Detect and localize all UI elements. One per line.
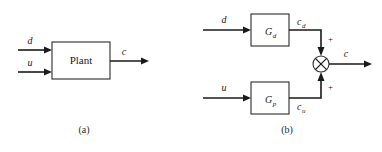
- c-output-label-b: c: [344, 48, 349, 59]
- u-input-arrowhead: [44, 69, 52, 76]
- u-input-label: u: [28, 57, 33, 68]
- sum-plus-top: +: [328, 34, 333, 44]
- cu-wire: [289, 78, 321, 98]
- cu-label: cu: [297, 101, 306, 115]
- cu-arrowhead: [318, 72, 325, 81]
- c-output-label: c: [122, 46, 127, 57]
- d-input-arrowhead: [44, 47, 52, 54]
- cd-arrowhead: [318, 47, 325, 56]
- diagram-canvas: Plant d u c (a) Gd d: [0, 0, 382, 152]
- panel-b-group: Gd d cd + Gp u: [203, 14, 372, 136]
- sum-plus-bottom: +: [328, 82, 333, 92]
- d-input-label-b: d: [222, 14, 228, 25]
- panel-a-group: Plant d u c (a): [18, 35, 149, 136]
- c-output-arrowhead-b: [364, 61, 372, 68]
- cd-label-sub: d: [302, 22, 306, 30]
- gd-block-label-sub: d: [273, 32, 277, 40]
- panel-a-caption: (a): [78, 124, 89, 136]
- cd-wire: [289, 30, 321, 50]
- c-output-arrowhead: [141, 58, 149, 65]
- cd-label: cd: [297, 16, 306, 30]
- panel-b-caption: (b): [281, 124, 293, 136]
- d-input-arrowhead-b: [243, 27, 251, 34]
- plant-block-label: Plant: [70, 54, 93, 66]
- u-input-arrowhead-b: [243, 95, 251, 102]
- u-input-label-b: u: [222, 82, 227, 93]
- cu-label-sub: u: [302, 107, 306, 115]
- gd-block-label-main: G: [265, 26, 272, 37]
- block-diagram-figure: Plant d u c (a) Gd d: [0, 0, 382, 152]
- gp-block-label-main: G: [265, 94, 272, 105]
- gp-block-label-sub: p: [272, 100, 277, 108]
- d-input-label: d: [28, 35, 34, 46]
